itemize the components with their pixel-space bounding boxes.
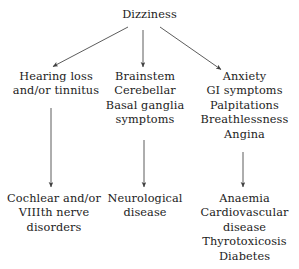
node-neurological-disease: Neurological disease xyxy=(99,192,191,221)
node-systemic-diagnoses-line-3: Thyrotoxicosis xyxy=(190,235,299,249)
node-brainstem-symptoms-line-3: symptoms xyxy=(99,113,191,127)
node-anxiety-symptoms-line-2: Palpitations xyxy=(190,99,299,113)
arrow-root-to-anxiety xyxy=(160,27,221,70)
node-cochlear-disorders: Cochlear and/or VIIIth nerve disorders xyxy=(0,192,108,235)
node-neurological-disease-line-0: Neurological xyxy=(99,192,191,206)
node-anxiety-symptoms-line-0: Anxiety xyxy=(190,70,299,84)
node-brainstem-symptoms: Brainstem Cerebellar Basal ganglia sympt… xyxy=(99,70,191,128)
node-anxiety-symptoms-line-4: Angina xyxy=(190,128,299,142)
node-dizziness: Dizziness xyxy=(0,8,299,22)
node-cochlear-disorders-line-2: disorders xyxy=(0,221,108,235)
node-hearing-symptoms-line-1: and/or tinnitus xyxy=(0,84,112,98)
dizziness-flowchart: Dizziness Hearing loss and/or tinnitus C… xyxy=(0,0,299,269)
node-brainstem-symptoms-line-2: Basal ganglia xyxy=(99,99,191,113)
node-cochlear-disorders-line-1: VIIIth nerve xyxy=(0,206,108,220)
node-systemic-diagnoses-line-4: Diabetes xyxy=(190,250,299,264)
node-anxiety-symptoms-line-3: Breathlessness xyxy=(190,113,299,127)
node-hearing-symptoms-line-0: Hearing loss xyxy=(0,70,112,84)
node-systemic-diagnoses-line-1: Cardiovascular xyxy=(190,206,299,220)
node-systemic-diagnoses-line-2: disease xyxy=(190,221,299,235)
node-hearing-symptoms: Hearing loss and/or tinnitus xyxy=(0,70,112,99)
node-dizziness-line-0: Dizziness xyxy=(0,8,299,22)
node-systemic-diagnoses-line-0: Anaemia xyxy=(190,192,299,206)
node-brainstem-symptoms-line-0: Brainstem xyxy=(99,70,191,84)
node-anxiety-symptoms: Anxiety GI symptoms Palpitations Breathl… xyxy=(190,70,299,142)
node-systemic-diagnoses: Anaemia Cardiovascular disease Thyrotoxi… xyxy=(190,192,299,264)
node-brainstem-symptoms-line-1: Cerebellar xyxy=(99,84,191,98)
arrow-root-to-hearing xyxy=(53,27,128,67)
node-cochlear-disorders-line-0: Cochlear and/or xyxy=(0,192,108,206)
node-anxiety-symptoms-line-1: GI symptoms xyxy=(190,84,299,98)
node-neurological-disease-line-1: disease xyxy=(99,206,191,220)
